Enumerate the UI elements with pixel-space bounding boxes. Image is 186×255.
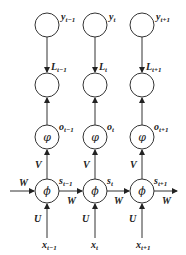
loss-node bbox=[83, 73, 107, 97]
v-label: V bbox=[35, 159, 43, 170]
x-label: xt+1 bbox=[135, 239, 150, 252]
Phi-symbol: ϕ bbox=[43, 185, 51, 198]
column-t: yt Lt ot φ V st ϕ U xt bbox=[82, 11, 116, 252]
loss-label: Lt bbox=[98, 61, 108, 74]
u-label: U bbox=[34, 213, 42, 224]
rnn-diagram: yt−1 Lt−1 ot−1 φ V st−1 ϕ U xt−1 yt Lt o… bbox=[0, 0, 186, 255]
v-label: V bbox=[130, 159, 138, 170]
phi-symbol: φ bbox=[138, 131, 146, 144]
phi-symbol: φ bbox=[43, 131, 51, 144]
u-label: U bbox=[129, 213, 137, 224]
u-label: U bbox=[82, 213, 90, 224]
column-t-minus-1: yt−1 Lt−1 ot−1 φ V st−1 ϕ U xt−1 bbox=[34, 11, 75, 252]
y-node bbox=[130, 13, 154, 37]
y-node bbox=[83, 13, 107, 37]
loss-node bbox=[35, 73, 59, 97]
y-label: yt bbox=[108, 11, 116, 24]
v-label: V bbox=[83, 159, 91, 170]
Phi-symbol: ϕ bbox=[138, 185, 146, 198]
x-label: xt−1 bbox=[41, 239, 57, 252]
s-label: st+1 bbox=[153, 175, 167, 188]
x-label: xt bbox=[90, 239, 99, 252]
column-t-plus-1: yt+1 Lt+1 ot+1 φ V st+1 ϕ U xt+1 bbox=[129, 11, 170, 252]
y-node bbox=[35, 13, 59, 37]
w-label-2: W bbox=[114, 195, 124, 206]
o-label: ot bbox=[107, 121, 115, 134]
w-label-out: W bbox=[162, 195, 172, 206]
w-label-1: W bbox=[67, 195, 77, 206]
o-label: ot−1 bbox=[59, 121, 74, 134]
y-label: yt−1 bbox=[60, 11, 75, 24]
Phi-symbol: ϕ bbox=[91, 185, 99, 198]
loss-label: Lt+1 bbox=[145, 61, 162, 74]
s-label: st bbox=[106, 175, 114, 188]
loss-label: Lt−1 bbox=[50, 61, 67, 74]
loss-node bbox=[130, 73, 154, 97]
s-label: st−1 bbox=[58, 175, 73, 188]
phi-symbol: φ bbox=[91, 131, 99, 144]
y-label: yt+1 bbox=[155, 11, 170, 24]
w-label-in: W bbox=[19, 177, 29, 188]
o-label: ot+1 bbox=[154, 121, 168, 134]
